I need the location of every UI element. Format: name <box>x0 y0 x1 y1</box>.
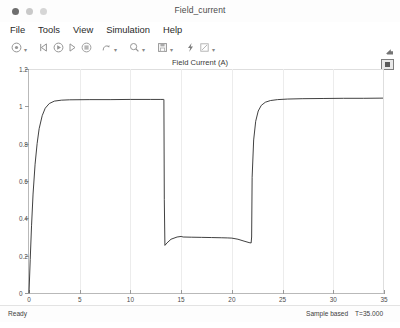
xtick-label-0: 0 <box>27 296 31 303</box>
pencil-icon[interactable] <box>198 41 211 54</box>
print-icon[interactable] <box>10 41 23 54</box>
status-mode: Sample based <box>306 310 348 317</box>
title-bar: Field_current <box>0 0 400 22</box>
xtick-label-5: 5 <box>78 296 82 303</box>
zoom-dropdown-icon[interactable]: ▾ <box>142 46 145 53</box>
ytick-label-0.8: 0.8 <box>19 140 28 147</box>
ytick-label-0.6: 0.6 <box>19 178 28 185</box>
plot-axes: 0 5 10 15 20 25 30 35 0 0.2 0.4 0.6 0.8 … <box>28 69 384 294</box>
menu-item-file[interactable]: File <box>10 24 25 35</box>
plot-panel: Field Current (A) <box>0 57 400 305</box>
scope-window: Field_current File Tools View Simulation… <box>0 0 400 328</box>
window-title: Field_current <box>0 5 400 15</box>
measurements-dropdown-icon[interactable]: ▾ <box>114 46 117 53</box>
status-bar: Ready Sample based T=35.000 <box>0 305 400 322</box>
menu-item-view[interactable]: View <box>73 24 93 35</box>
xtick-label-35: 35 <box>380 296 387 303</box>
menu-item-simulation[interactable]: Simulation <box>106 24 150 35</box>
ytick-label-1: 1 <box>19 103 23 110</box>
ytick-label-0.4: 0.4 <box>19 215 28 222</box>
status-ready: Ready <box>8 310 27 317</box>
save-icon[interactable] <box>156 41 169 54</box>
xtick-label-10: 10 <box>127 296 134 303</box>
signal-trace <box>29 69 384 293</box>
save-dropdown-icon[interactable]: ▾ <box>170 46 173 53</box>
xtick-label-20: 20 <box>228 296 235 303</box>
xtick-35 <box>384 290 385 294</box>
style-dropdown-icon[interactable]: ▾ <box>212 46 215 53</box>
stop-icon[interactable] <box>80 41 93 54</box>
bolt-icon[interactable] <box>184 41 197 54</box>
status-time: T=35.000 <box>355 310 383 317</box>
toolbar-overflow-icon[interactable] <box>385 43 394 52</box>
menu-item-tools[interactable]: Tools <box>38 24 60 35</box>
step-forward-icon[interactable] <box>66 41 79 54</box>
ytick-label-0: 0 <box>19 290 23 297</box>
menu-bar: File Tools View Simulation Help <box>0 21 400 38</box>
ytick-0 <box>25 293 29 294</box>
xtick-label-30: 30 <box>330 296 337 303</box>
toolbar: ▾ <box>0 38 400 57</box>
xtick-label-25: 25 <box>279 296 286 303</box>
menu-item-help[interactable]: Help <box>163 24 182 35</box>
step-back-icon[interactable] <box>38 41 51 54</box>
measurements-icon[interactable] <box>100 41 113 54</box>
zoom-icon[interactable] <box>128 41 141 54</box>
print-dropdown-icon[interactable]: ▾ <box>24 46 27 53</box>
ytick-label-1.2: 1.2 <box>19 66 28 73</box>
ytick-label-0.2: 0.2 <box>19 252 28 259</box>
plot-title: Field Current (A) <box>0 58 400 67</box>
run-icon[interactable] <box>52 41 65 54</box>
xtick-label-15: 15 <box>178 296 185 303</box>
